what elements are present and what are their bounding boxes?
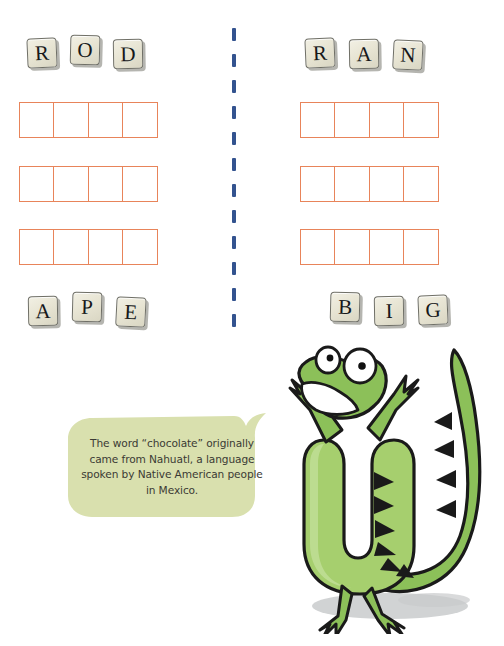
letter-tile: A	[349, 39, 380, 70]
grid-cell[interactable]	[122, 102, 158, 138]
grid-cell[interactable]	[19, 229, 55, 265]
letter-tile: B	[330, 292, 361, 323]
mascot-tail-spikes	[434, 412, 456, 518]
divider-dash	[232, 314, 236, 327]
grid-cell[interactable]	[403, 166, 439, 202]
grid-cell[interactable]	[369, 102, 405, 138]
divider-dash	[232, 158, 236, 171]
divider-dash	[232, 54, 236, 67]
grid-cell[interactable]	[334, 102, 370, 138]
grid-cell[interactable]	[300, 166, 336, 202]
letter-tile: R	[26, 37, 57, 68]
grid-cell[interactable]	[369, 229, 405, 265]
grid-cell[interactable]	[53, 102, 89, 138]
divider-dash	[232, 262, 236, 275]
divider-dash	[232, 106, 236, 119]
divider-dash	[232, 184, 236, 197]
right-bottom-word-tiles: B I G	[330, 295, 448, 325]
left-answer-grid-3	[19, 229, 158, 265]
mascot-left-pupil	[327, 355, 334, 362]
divider-dash	[232, 210, 236, 223]
grid-cell[interactable]	[122, 166, 158, 202]
divider-dash	[232, 288, 236, 301]
grid-cell[interactable]	[403, 229, 439, 265]
letter-tile: P	[72, 292, 103, 323]
right-answer-grid-2	[300, 166, 439, 202]
letter-tile: R	[304, 37, 335, 68]
grid-cell[interactable]	[19, 102, 55, 138]
grid-cell[interactable]	[88, 229, 124, 265]
grid-cell[interactable]	[334, 229, 370, 265]
grid-cell[interactable]	[369, 166, 405, 202]
divider-dash	[232, 28, 236, 41]
letter-tile: N	[392, 39, 424, 71]
divider-dash	[232, 80, 236, 93]
grid-cell[interactable]	[300, 229, 336, 265]
grid-cell[interactable]	[403, 102, 439, 138]
grid-cell[interactable]	[88, 102, 124, 138]
divider-dash	[232, 132, 236, 145]
letter-tile: O	[70, 35, 101, 66]
letter-tile: G	[417, 294, 448, 325]
letter-tile: E	[115, 296, 147, 328]
grid-cell[interactable]	[334, 166, 370, 202]
left-top-word-tiles: R O D	[27, 38, 143, 68]
letter-tile: A	[28, 296, 59, 327]
right-top-word-tiles: R A N	[305, 38, 423, 68]
right-answer-grid-3	[300, 229, 439, 265]
green-lizard-mascot	[268, 344, 504, 634]
left-answer-grid-2	[19, 166, 158, 202]
worksheet-page: R O D A P E R A N	[0, 0, 504, 646]
fact-speech-bubble: The word “chocolate” originally came fro…	[66, 412, 278, 522]
right-answer-grid-1	[300, 102, 439, 138]
letter-tile: D	[113, 39, 144, 70]
grid-cell[interactable]	[53, 166, 89, 202]
left-bottom-word-tiles: A P E	[28, 295, 146, 325]
left-answer-grid-1	[19, 102, 158, 138]
mascot-right-pupil	[358, 362, 366, 370]
vertical-dashed-divider	[232, 28, 236, 342]
mascot-shadow-tip	[398, 593, 470, 607]
divider-dash	[232, 236, 236, 249]
letter-tile: I	[374, 296, 405, 327]
grid-cell[interactable]	[88, 166, 124, 202]
fact-text: The word “chocolate” originally came fro…	[80, 436, 264, 498]
grid-cell[interactable]	[300, 102, 336, 138]
grid-cell[interactable]	[122, 229, 158, 265]
grid-cell[interactable]	[53, 229, 89, 265]
grid-cell[interactable]	[19, 166, 55, 202]
